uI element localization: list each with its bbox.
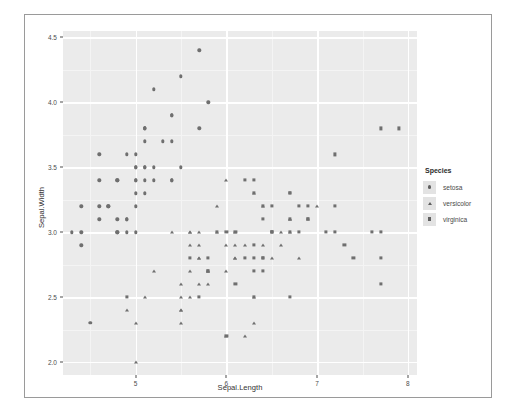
- gridline-major-horizontal: [63, 102, 417, 103]
- legend-item-label: virginica: [443, 216, 467, 223]
- data-point-virginica: [379, 257, 382, 260]
- gridline-minor-horizontal: [63, 265, 417, 266]
- data-point-virginica: [252, 179, 255, 182]
- data-point-setosa: [116, 179, 119, 182]
- data-point-setosa: [143, 127, 146, 130]
- data-point-setosa: [107, 205, 110, 208]
- data-point-virginica: [225, 231, 228, 234]
- data-point-versicolor: [224, 270, 228, 273]
- data-point-virginica: [234, 283, 237, 286]
- data-point-virginica: [343, 244, 346, 247]
- data-point-virginica: [334, 153, 337, 156]
- y-tick-mark: [60, 297, 63, 298]
- data-point-versicolor: [152, 270, 156, 273]
- data-point-setosa: [98, 153, 101, 156]
- legend-item-setosa[interactable]: setosa: [423, 179, 493, 195]
- circle-icon: [423, 181, 436, 194]
- y-tick-label: 2.0: [48, 359, 57, 366]
- y-tick-mark: [60, 167, 63, 168]
- data-point-setosa: [143, 179, 146, 182]
- gridline-minor-horizontal: [63, 135, 417, 136]
- data-point-virginica: [352, 257, 355, 260]
- data-point-versicolor: [233, 244, 237, 247]
- plot-frame: 2.02.53.03.54.04.5 5678 Sepal.Length Sep…: [24, 14, 492, 398]
- x-tick-mark: [317, 375, 318, 378]
- data-point-virginica: [306, 218, 309, 221]
- data-point-versicolor: [179, 296, 183, 299]
- data-point-virginica: [261, 218, 264, 221]
- data-point-setosa: [197, 127, 200, 130]
- data-point-virginica: [370, 231, 373, 234]
- data-point-setosa: [179, 75, 182, 78]
- data-point-setosa: [152, 88, 155, 91]
- data-point-setosa: [89, 321, 92, 324]
- data-point-versicolor: [188, 296, 192, 299]
- data-point-setosa: [125, 218, 128, 221]
- data-point-versicolor: [215, 205, 219, 208]
- data-point-versicolor: [279, 231, 283, 234]
- data-point-virginica: [297, 205, 300, 208]
- data-point-setosa: [143, 192, 146, 195]
- y-tick-label: 3.0: [48, 229, 57, 236]
- gridline-minor-vertical: [272, 31, 273, 375]
- data-point-versicolor: [279, 244, 283, 247]
- data-point-setosa: [143, 140, 146, 143]
- legend-glyph: [428, 185, 431, 188]
- data-point-setosa: [197, 49, 200, 52]
- y-axis-title: Sepal.Width: [37, 148, 46, 268]
- x-tick-mark: [135, 375, 136, 378]
- data-point-versicolor: [206, 283, 210, 286]
- data-point-virginica: [297, 231, 300, 234]
- data-point-setosa: [98, 179, 101, 182]
- data-point-versicolor: [143, 296, 147, 299]
- gridline-major-horizontal: [63, 362, 417, 363]
- y-tick-label: 2.5: [48, 294, 57, 301]
- y-tick-mark: [60, 102, 63, 103]
- legend-item-virginica[interactable]: virginica: [423, 211, 493, 227]
- data-point-versicolor: [297, 257, 301, 260]
- legend: Species setosaversicolorvirginica: [423, 167, 493, 227]
- data-point-virginica: [379, 231, 382, 234]
- data-point-virginica: [379, 127, 382, 130]
- data-point-virginica: [261, 270, 264, 273]
- data-point-versicolor: [224, 179, 228, 182]
- data-point-virginica: [198, 296, 201, 299]
- data-point-virginica: [379, 283, 382, 286]
- gridline-minor-vertical: [363, 31, 364, 375]
- data-point-versicolor: [261, 244, 265, 247]
- y-tick-mark: [60, 232, 63, 233]
- data-point-setosa: [79, 205, 82, 208]
- data-point-virginica: [261, 205, 264, 208]
- data-point-setosa: [98, 205, 101, 208]
- y-tick-mark: [60, 362, 63, 363]
- data-point-virginica: [261, 257, 264, 260]
- data-point-virginica: [288, 296, 291, 299]
- data-point-versicolor: [224, 244, 228, 247]
- data-point-virginica: [234, 231, 237, 234]
- gridline-major-vertical: [408, 31, 409, 375]
- data-point-virginica: [207, 270, 210, 273]
- legend-glyph: [428, 217, 431, 220]
- data-point-virginica: [334, 205, 337, 208]
- legend-item-label: setosa: [443, 184, 462, 191]
- x-axis-title: Sepal.Length: [63, 383, 417, 392]
- legend-glyph: [428, 202, 432, 205]
- data-point-virginica: [288, 218, 291, 221]
- data-point-virginica: [188, 257, 191, 260]
- data-point-versicolor: [197, 257, 201, 260]
- data-point-versicolor: [134, 361, 138, 364]
- data-point-virginica: [270, 231, 273, 234]
- data-point-versicolor: [243, 244, 247, 247]
- square-icon: [423, 213, 436, 226]
- data-point-versicolor: [179, 322, 183, 325]
- data-point-setosa: [161, 140, 164, 143]
- gridline-major-horizontal: [63, 37, 417, 38]
- data-point-versicolor: [197, 244, 201, 247]
- data-point-versicolor: [134, 322, 138, 325]
- gridline-major-horizontal: [63, 167, 417, 168]
- data-point-virginica: [252, 296, 255, 299]
- gridline-major-vertical: [226, 31, 227, 375]
- legend-item-versicolor[interactable]: versicolor: [423, 195, 493, 211]
- data-point-setosa: [170, 114, 173, 117]
- data-point-versicolor: [197, 231, 201, 234]
